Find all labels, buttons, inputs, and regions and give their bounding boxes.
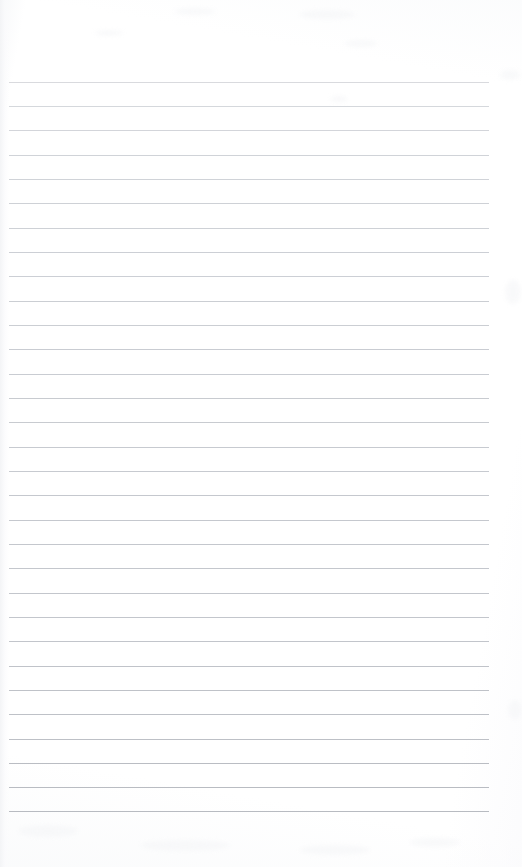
ruled-line <box>9 179 489 180</box>
ruled-line <box>9 568 489 569</box>
ruled-line <box>9 398 489 399</box>
ruled-line <box>9 714 489 715</box>
ruled-line <box>9 82 489 83</box>
ruled-line <box>9 544 489 545</box>
ruled-line <box>9 325 489 326</box>
ruled-line <box>9 374 489 375</box>
ruled-line <box>9 520 489 521</box>
ruled-line <box>9 787 489 788</box>
ruled-lines-group <box>0 0 522 867</box>
ruled-line <box>9 666 489 667</box>
ruled-line <box>9 155 489 156</box>
ruled-line <box>9 276 489 277</box>
ruled-line <box>9 422 489 423</box>
ruled-line <box>9 301 489 302</box>
ruled-line <box>9 739 489 740</box>
ruled-line <box>9 447 489 448</box>
ruled-line <box>9 811 489 812</box>
ruled-line <box>9 763 489 764</box>
ruled-line <box>9 203 489 204</box>
ruled-line <box>9 106 489 107</box>
ruled-line <box>9 593 489 594</box>
ruled-line <box>9 471 489 472</box>
ruled-line <box>9 349 489 350</box>
ruled-line <box>9 495 489 496</box>
ruled-line <box>9 617 489 618</box>
scanned-page <box>0 0 522 867</box>
ruled-line <box>9 228 489 229</box>
ruled-line <box>9 641 489 642</box>
ruled-line <box>9 690 489 691</box>
ruled-line <box>9 130 489 131</box>
ruled-line <box>9 252 489 253</box>
